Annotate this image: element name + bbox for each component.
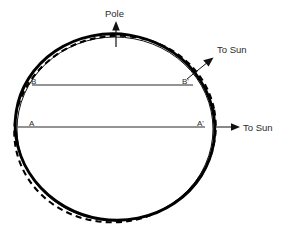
tidal-bulge-solid-path [2,20,229,227]
to-sun-lower-arrow [215,123,240,131]
tidal-deformation-diagram: Pole To Sun To Sun B B' A A' [0,0,289,227]
point-a-left-label: A [29,119,35,128]
to-sun-lower-arrow-head-icon [231,123,240,131]
diagram-canvas: Pole To Sun To Sun B B' A A' [0,0,289,227]
point-b-right-label: B' [182,77,189,86]
to-sun-lower-label: To Sun [243,122,273,133]
point-a-right-label: A' [197,119,204,128]
pole-label: Pole [105,8,124,19]
point-b-left-label: B [31,77,36,86]
pole-arrow-head-icon [112,21,120,31]
tidal-bulge-solid [2,20,229,227]
to-sun-upper-label: To Sun [217,44,247,55]
